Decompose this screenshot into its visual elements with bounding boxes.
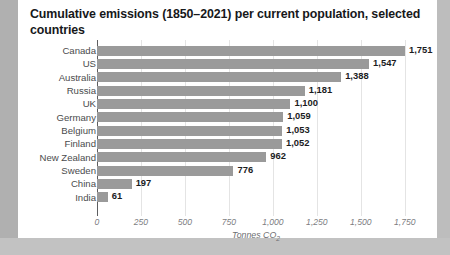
bar-value-label: 1,547 [373, 56, 396, 69]
bar-value-label: 1,388 [345, 69, 368, 82]
bar-category-label: UK [0, 97, 96, 110]
x-tick-label: 1,500 [350, 217, 372, 227]
bar-category-label: New Zealand [0, 151, 96, 164]
bar-row: Finland1,052 [18, 137, 437, 150]
bar-value-label: 1,100 [294, 96, 317, 109]
bar-row: Russia1,181 [18, 84, 437, 97]
bar-category-label: Finland [0, 137, 96, 150]
x-tick-label: 500 [178, 217, 192, 227]
bar-container [97, 179, 132, 189]
bar-category-label: Sweden [0, 164, 96, 177]
x-tick-label: 250 [134, 217, 148, 227]
bar-row: Sweden776 [18, 164, 437, 177]
bar-category-label: Australia [0, 71, 96, 84]
chart-title: Cumulative emissions (1850–2021) per cur… [30, 6, 422, 38]
bar [97, 166, 233, 176]
bar [97, 152, 266, 162]
bar-value-label: 61 [112, 189, 122, 202]
x-tick-label: 1,250 [306, 217, 328, 227]
bar-row: Belgium1,053 [18, 124, 437, 137]
bar-value-label: 197 [136, 176, 152, 189]
bar-series: Canada1,751US1,547Australia1,388Russia1,… [18, 44, 437, 216]
x-tick-label: 1,000 [262, 217, 284, 227]
bar [97, 126, 282, 136]
bar [97, 179, 132, 189]
screenshot-root: Cumulative emissions (1850–2021) per cur… [0, 0, 450, 255]
bar [97, 192, 108, 202]
bar-category-label: Belgium [0, 124, 96, 137]
bar-container [97, 112, 283, 122]
bar-container [97, 59, 369, 69]
bar-category-label: Russia [0, 84, 96, 97]
bar-value-label: 1,053 [286, 123, 309, 136]
bar [97, 59, 369, 69]
bar-value-label: 1,052 [286, 136, 309, 149]
page-margin-right [437, 0, 450, 255]
bar [97, 99, 290, 109]
bar-row: US1,547 [18, 57, 437, 70]
bar [97, 139, 282, 149]
bar-category-label: India [0, 191, 96, 204]
bar [97, 86, 305, 96]
bar-value-label: 962 [270, 149, 286, 162]
bar-category-label: Germany [0, 111, 96, 124]
x-tick-label: 0 [95, 217, 100, 227]
bar-row: Germany1,059 [18, 111, 437, 124]
bar-row: New Zealand962 [18, 151, 437, 164]
bar-value-label: 1,751 [409, 43, 432, 56]
bar-container [97, 99, 290, 109]
bar [97, 112, 283, 122]
bar-row: UK1,100 [18, 97, 437, 110]
bar [97, 72, 341, 82]
bar-container [97, 86, 305, 96]
bar-container [97, 72, 341, 82]
x-axis-label-text: Tonnes CO2 [232, 230, 280, 240]
bar-category-label: US [0, 57, 96, 70]
bar-container [97, 46, 405, 56]
bar [97, 46, 405, 56]
bar-container [97, 152, 266, 162]
plot-area: Canada1,751US1,547Australia1,388Russia1,… [18, 40, 437, 238]
x-axis-label: Tonnes CO2 [96, 230, 416, 242]
bar-value-label: 776 [237, 163, 253, 176]
bar-value-label: 1,181 [309, 83, 332, 96]
bar-category-label: Canada [0, 44, 96, 57]
x-tick-label: 750 [222, 217, 236, 227]
bar-row: Australia1,388 [18, 71, 437, 84]
bar-container [97, 192, 108, 202]
bar-container [97, 126, 282, 136]
bar-container [97, 139, 282, 149]
bar-container [97, 166, 233, 176]
x-tick-label: 1,750 [394, 217, 416, 227]
bar-row: India61 [18, 191, 437, 204]
chart-card: Cumulative emissions (1850–2021) per cur… [18, 0, 437, 238]
bar-value-label: 1,059 [287, 109, 310, 122]
bar-category-label: China [0, 177, 96, 190]
bar-row: China197 [18, 177, 437, 190]
